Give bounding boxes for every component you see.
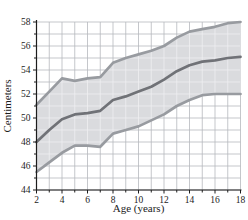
y-tick-label: 46 [21,161,31,171]
growth-chart-figure: 246810121416184446485052545658 Age (year… [0,0,248,220]
x-tick-label: 18 [236,195,246,205]
chart-canvas: 246810121416184446485052545658 Age (year… [0,0,248,220]
x-tick-label: 14 [185,195,195,205]
x-tick-label: 2 [34,195,39,205]
x-tick-label: 6 [85,195,90,205]
y-tick-label: 44 [21,185,31,195]
y-tick-label: 48 [21,137,31,147]
y-axis-title: Centimeters [1,79,13,132]
y-tick-label: 54 [21,65,31,75]
x-tick-label: 4 [60,195,65,205]
y-tick-label: 56 [21,41,31,51]
y-tick-label: 50 [21,113,31,123]
y-tick-label: 58 [21,17,31,27]
y-tick-label: 52 [21,89,31,99]
x-tick-label: 16 [210,195,220,205]
x-axis-title: Age (years) [113,202,165,215]
